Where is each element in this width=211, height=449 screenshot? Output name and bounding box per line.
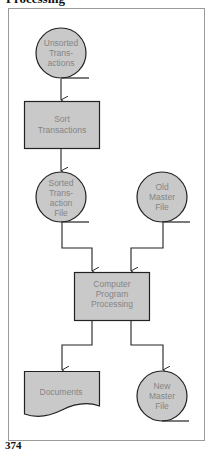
- svg-text:ComputerProgramProcessing: ComputerProgramProcessing: [91, 279, 133, 309]
- node-documents: Documents: [25, 372, 100, 417]
- edge-processing-to-newmaster: [131, 321, 163, 370]
- svg-text:Documents: Documents: [40, 387, 83, 397]
- edge-processing-to-documents: [62, 321, 92, 370]
- node-sorted-transaction-file: SortedTrans-actionFile: [36, 172, 89, 222]
- flowchart: UnsortedTrans-actions SortTransactions S…: [0, 0, 211, 449]
- edge-sorted-to-processing: [62, 223, 92, 271]
- node-old-master-file: OldMasterFile: [137, 172, 190, 222]
- page-number: 374: [5, 439, 22, 449]
- node-new-master-file: NewMasterFile: [137, 371, 189, 421]
- node-sort-transactions: SortTransactions: [25, 102, 100, 149]
- node-unsorted-transactions: UnsortedTrans-actions: [36, 28, 89, 78]
- edge-oldmaster-to-processing: [131, 223, 163, 271]
- node-computer-program-processing: ComputerProgramProcessing: [75, 273, 150, 321]
